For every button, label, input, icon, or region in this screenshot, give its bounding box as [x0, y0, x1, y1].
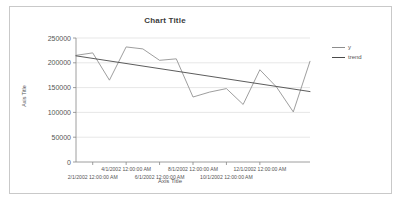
x-axis-title: Axis Title	[40, 178, 300, 184]
y-tick-label: 0	[67, 159, 71, 166]
legend-label: y	[348, 43, 351, 52]
y-tick-label: 200000	[48, 59, 71, 66]
y-axis-title: Axis Title	[21, 66, 27, 126]
legend-item[interactable]: trend	[332, 53, 390, 62]
legend-swatch-line-icon	[332, 47, 345, 48]
chart-container: Chart Title 2500002000001500001000005000…	[9, 6, 392, 194]
legend-item[interactable]: y	[332, 43, 390, 52]
data-series-y	[76, 47, 310, 112]
y-tick-label: 250000	[48, 35, 71, 42]
plot-area: 2500002000001500001000005000002/1/2002 1…	[10, 7, 393, 195]
x-tick-label: 12/1/2002 12:00:00 AM	[234, 166, 287, 172]
x-tick-label: 8/1/2002 12:00:00 AM	[168, 166, 218, 172]
legend-label: trend	[348, 53, 362, 62]
data-series-trend	[76, 56, 310, 92]
chart-legend: ytrend	[332, 43, 390, 63]
y-tick-label: 100000	[48, 109, 71, 116]
legend-swatch-line-icon	[332, 57, 345, 58]
y-tick-label: 150000	[48, 84, 71, 91]
y-tick-label: 50000	[52, 134, 72, 141]
x-tick-label: 4/1/2002 12:00:00 AM	[101, 166, 151, 172]
